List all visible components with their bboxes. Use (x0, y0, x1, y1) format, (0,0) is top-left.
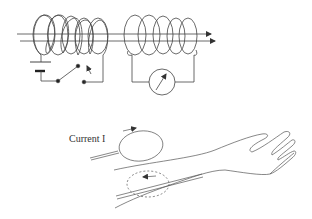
primary-lead-right (84, 55, 103, 82)
primary-coil-icon (33, 15, 108, 55)
tissue-line-lower (117, 177, 203, 199)
top-panel (17, 15, 215, 95)
secondary-lead-left (132, 55, 149, 82)
secondary-circuit (132, 55, 194, 95)
coil-turn (179, 18, 197, 54)
bottom-panel: Current I (69, 128, 296, 208)
coil-turn (167, 18, 185, 54)
coil-turn (88, 18, 108, 54)
secondary-coil-icon (124, 15, 197, 55)
coil-turn (33, 15, 55, 55)
coil-turn (138, 15, 160, 55)
diagram-canvas: Current I (0, 0, 312, 219)
switch-contact-top (76, 64, 80, 68)
tissue-line-upper (116, 174, 202, 196)
induced-current-arrow-icon (143, 176, 156, 177)
switch-pivot (56, 79, 60, 83)
primary-circuit (30, 55, 103, 84)
galvanometer-icon (149, 69, 175, 95)
wire-to-switch (41, 71, 58, 81)
switch-arrow-icon (87, 66, 91, 74)
coil-turn (75, 18, 93, 54)
current-label: Current I (69, 133, 105, 144)
secondary-lead-right (175, 55, 194, 82)
current-direction-arrow-icon (123, 128, 136, 131)
current-loop-icon (117, 128, 165, 164)
coil-turn (124, 15, 146, 55)
coil-turn (153, 16, 173, 54)
galvanometer-needle-icon (156, 74, 166, 90)
induction-diagram: Current I (0, 0, 312, 219)
switch-arm-icon (58, 66, 78, 81)
